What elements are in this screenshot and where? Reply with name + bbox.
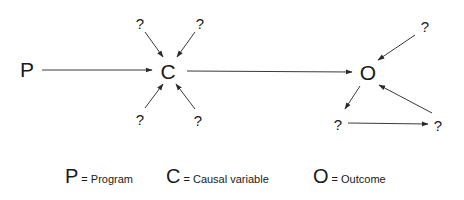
node-unknown-o-bottom-right: ? bbox=[434, 117, 442, 134]
node-unknown-c-top-right: ? bbox=[196, 15, 204, 32]
legend-item-outcome: O= Outcome bbox=[313, 165, 386, 188]
node-unknown-c-top-left: ? bbox=[136, 15, 144, 32]
legend-text: = Program bbox=[81, 173, 133, 185]
node-unknown-o-top-right: ? bbox=[421, 18, 429, 35]
legend-symbol: C bbox=[166, 165, 180, 187]
edge-c-to-o bbox=[187, 71, 352, 72]
legend: P= Program C= Causal variable O= Outcome bbox=[0, 165, 464, 193]
node-program: P bbox=[20, 58, 34, 81]
node-unknown-o-bottom-left: ? bbox=[334, 116, 342, 133]
legend-text: = Outcome bbox=[332, 173, 386, 185]
nodes: P C O ? ? ? ? ? ? ? bbox=[20, 15, 442, 134]
edge-q-bottom-right-to-c bbox=[176, 84, 195, 109]
edge-q-bottom-left-to-q-bottom-right bbox=[348, 123, 428, 124]
legend-text: = Causal variable bbox=[183, 173, 268, 185]
edge-q-bottom-left-to-c bbox=[145, 84, 163, 108]
legend-item-program: P= Program bbox=[65, 165, 133, 188]
edge-o-to-q-bottom-left bbox=[345, 86, 360, 109]
edge-q-top-left-to-c bbox=[145, 32, 163, 57]
legend-symbol: O bbox=[313, 165, 329, 187]
edge-q-top-right-to-o bbox=[378, 35, 415, 60]
node-causal-variable: C bbox=[160, 60, 175, 83]
node-unknown-c-bottom-right: ? bbox=[194, 112, 202, 129]
legend-item-causal-variable: C= Causal variable bbox=[166, 165, 269, 188]
legend-symbol: P bbox=[65, 165, 78, 187]
edge-q-bottom-right-to-o bbox=[379, 85, 432, 113]
node-outcome: O bbox=[360, 61, 376, 84]
node-unknown-c-bottom-left: ? bbox=[136, 111, 144, 128]
edge-q-top-right-to-c bbox=[177, 32, 195, 57]
